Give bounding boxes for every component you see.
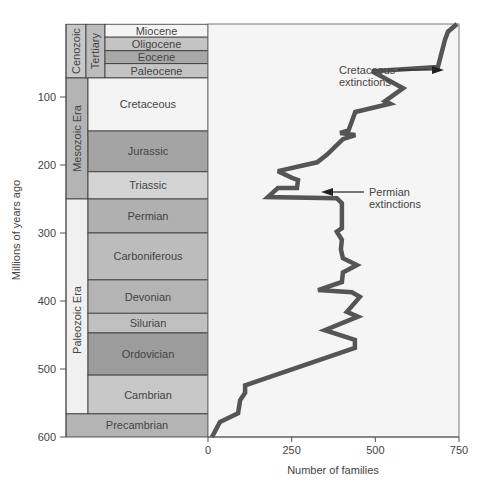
y-axis: 100200300400500600 [38,24,66,443]
y-tick-label: 600 [38,431,56,443]
y-tick-label: 100 [38,91,56,103]
cretaceous-annotation-text: extinctions [339,76,391,88]
geologic-timescale: CenozoicMesozoic EraPaleozoic EraTertiar… [66,24,208,437]
period-label: Jurassic [128,145,169,157]
geologic-diversity-chart: CenozoicMesozoic EraPaleozoic EraTertiar… [0,0,481,493]
period-label: Paleocene [131,65,183,77]
period-label: Triassic [129,179,167,191]
era-label: Paleozoic Era [71,285,83,354]
permian-annotation-text: Permian [369,186,410,198]
x-tick-label: 250 [282,444,300,456]
y-tick-label: 200 [38,159,56,171]
period-label: Cretaceous [120,98,177,110]
x-tick-label: 500 [366,444,384,456]
period-label: Silurian [130,317,167,329]
x-tick-label: 0 [205,444,211,456]
era-label: Mesozoic Era [71,104,83,172]
y-tick-label: 400 [38,295,56,307]
y-tick-label: 300 [38,227,56,239]
period-label: Cambrian [124,389,172,401]
y-axis-label: Millions of years ago [10,180,22,280]
period-label: Permian [128,210,169,222]
period-label: Oligocene [132,38,182,50]
plot-area [208,24,459,437]
period-label: Miocene [136,25,178,37]
x-tick-label: 750 [450,444,468,456]
subera-label: Tertiary [89,33,101,70]
period-label: Devonian [125,291,171,303]
x-axis-label: Number of families [287,464,379,476]
period-label: Precambrian [106,419,168,431]
permian-annotation-text: extinctions [369,198,421,210]
period-label: Ordovician [122,348,175,360]
period-label: Carboniferous [113,250,183,262]
era-label: Cenozoic [70,28,82,74]
period-label: Eocene [138,51,175,63]
x-axis: 0250500750 [205,437,468,456]
cretaceous-annotation-text: Cretaceous [339,64,396,76]
y-tick-label: 500 [38,363,56,375]
